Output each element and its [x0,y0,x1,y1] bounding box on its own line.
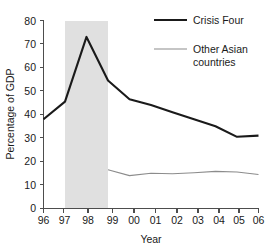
y-tick-label: 0 [30,202,36,214]
legend-label-crisis-four: Crisis Four [193,14,244,26]
x-tick-label: 99 [107,214,119,226]
x-tick-label: 00 [128,214,140,226]
x-tick-label: 05 [233,214,245,226]
x-axis-ticks [44,209,259,213]
y-tick-label: 60 [24,61,36,73]
x-tick-label: 04 [213,214,225,226]
series-line-other-asian-countries [108,170,259,176]
legend-label-other-asian-countries-line1: Other Asian [193,43,248,55]
y-tick-label: 30 [24,132,36,144]
chart-legend: Crisis Four Other Asian countries [154,14,248,68]
x-tick-label: 96 [38,214,50,226]
y-tick-label: 40 [24,108,36,120]
y-tick-label: 10 [24,179,36,191]
y-axis-tick-labels: 80 70 60 50 40 30 20 10 0 [24,15,36,215]
shaded-region-crisis-period [65,21,108,208]
y-axis-ticks [40,21,44,209]
x-axis-title: Year [140,233,162,245]
y-tick-label: 80 [24,15,36,27]
legend-label-other-asian-countries-line2: countries [193,56,236,68]
y-tick-label: 70 [24,38,36,50]
x-tick-label: 03 [192,214,204,226]
x-tick-label: 01 [150,214,162,226]
y-tick-label: 50 [24,85,36,97]
x-tick-label: 02 [171,214,183,226]
y-axis-title: Percentage of GDP [4,68,16,159]
y-tick-label: 20 [24,155,36,167]
x-tick-label: 06 [253,214,265,226]
x-axis-tick-labels: 96 97 98 99 00 01 02 03 04 05 06 [38,214,265,226]
x-tick-label: 97 [59,214,71,226]
x-tick-label: 98 [82,214,94,226]
line-chart-svg: 80 70 60 50 40 30 20 10 0 96 97 [0,0,279,250]
chart-figure: 80 70 60 50 40 30 20 10 0 96 97 [0,0,279,250]
